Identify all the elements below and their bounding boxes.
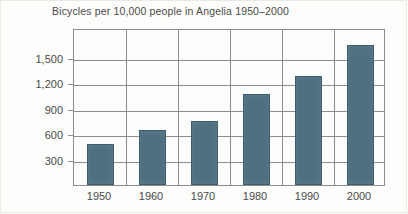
y-axis-tick-mark xyxy=(68,161,73,162)
x-gridline xyxy=(126,30,127,185)
scanned-page: Bicycles per 10,000 people in Angelia 19… xyxy=(0,0,408,214)
x-gridline xyxy=(230,30,231,185)
x-gridline xyxy=(334,30,335,185)
y-axis-tick-label: 600 xyxy=(1,129,63,141)
y-axis-tick-label: 1,500 xyxy=(1,53,63,65)
y-axis-tick-label: 300 xyxy=(1,155,63,167)
plot-area xyxy=(73,29,385,186)
y-gridline xyxy=(74,162,384,163)
bar-1950 xyxy=(87,144,114,185)
y-axis-tick-label: 900 xyxy=(1,104,63,116)
y-gridline xyxy=(74,60,384,61)
y-axis-tick-mark xyxy=(68,110,73,111)
x-axis-tick-label: 1990 xyxy=(295,190,319,202)
y-axis-tick-mark xyxy=(68,84,73,85)
bar-1980 xyxy=(243,94,270,185)
x-axis-tick-label: 1970 xyxy=(191,190,215,202)
bar-1990 xyxy=(295,76,322,185)
y-axis-tick-label: 1,200 xyxy=(1,78,63,90)
bar-1970 xyxy=(191,121,218,185)
y-axis-tick-mark xyxy=(68,135,73,136)
x-axis-tick-label: 1950 xyxy=(87,190,111,202)
bar-2000 xyxy=(347,45,374,185)
x-axis-tick-label: 1980 xyxy=(243,190,267,202)
y-axis-tick-mark xyxy=(68,59,73,60)
x-axis-tick-label: 1960 xyxy=(139,190,163,202)
bar-1960 xyxy=(139,130,166,185)
chart-title: Bicycles per 10,000 people in Angelia 19… xyxy=(52,5,289,17)
x-gridline xyxy=(282,30,283,185)
y-gridline xyxy=(74,111,384,112)
x-gridline xyxy=(178,30,179,185)
y-gridline xyxy=(74,85,384,86)
x-axis-tick-label: 2000 xyxy=(347,190,371,202)
y-gridline xyxy=(74,136,384,137)
